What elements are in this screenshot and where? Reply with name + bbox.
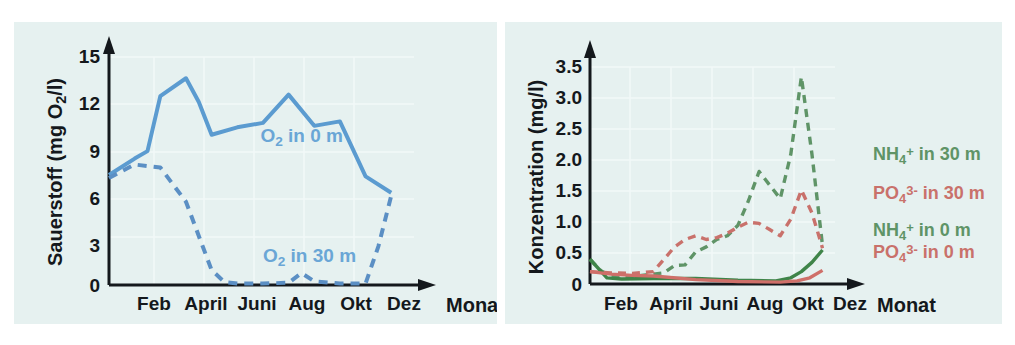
concentration-chart-svg: 3.5 3.0 2.5 2.0 1.5 1.0 0.5 0 Feb April … — [505, 22, 1002, 324]
y-tick-label: 0.5 — [556, 242, 583, 263]
x-tick-label: April — [649, 293, 692, 314]
oxygen-y-axis-title: Sauerstoff (mg O2/l) — [44, 78, 69, 266]
concentration-y-axis — [584, 40, 596, 284]
x-tick-label: Juni — [237, 293, 276, 314]
oxygen-y-tick-labels: 15 12 9 6 3 0 — [79, 46, 101, 296]
y-tick-label: 9 — [89, 141, 100, 162]
y-tick-label: 1.5 — [556, 180, 583, 201]
x-tick-label: Dez — [833, 293, 867, 314]
series-line-o2-0m — [109, 78, 391, 193]
x-tick-label: Aug — [289, 293, 326, 314]
x-axis-arrow-icon — [418, 279, 436, 291]
legend-item-nh4-0m: NH4+ in 0 m — [873, 220, 971, 243]
y-tick-label: 6 — [89, 188, 100, 209]
figure-root: 15 12 9 6 3 0 Feb April Juni Aug Okt Dez… — [0, 0, 1015, 345]
y-tick-label: 3.5 — [556, 56, 583, 77]
concentration-y-tick-labels: 3.5 3.0 2.5 2.0 1.5 1.0 0.5 0 — [556, 56, 583, 295]
x-tick-label: Feb — [604, 293, 638, 314]
oxygen-x-axis — [109, 279, 436, 291]
y-axis-title-sub: 2 — [53, 96, 69, 104]
x-tick-label: Juni — [699, 293, 738, 314]
x-axis-arrow-icon — [847, 278, 865, 290]
oxygen-x-axis-title: Monat — [446, 294, 497, 316]
concentration-series-group — [590, 77, 823, 282]
y-axis-arrow-icon — [103, 36, 115, 54]
y-tick-label: 0 — [89, 275, 100, 296]
oxygen-chart-svg: 15 12 9 6 3 0 Feb April Juni Aug Okt Dez… — [14, 22, 497, 324]
series-line-po4-30m — [590, 190, 823, 273]
y-tick-label: 3 — [89, 235, 100, 256]
y-tick-label: 12 — [79, 93, 100, 114]
x-tick-label: Aug — [747, 293, 784, 314]
concentration-x-tick-labels: Feb April Juni Aug Okt Dez — [604, 293, 867, 314]
y-tick-label: 3.0 — [556, 87, 582, 108]
legend-item-nh4-30m: NH4+ in 30 m — [873, 144, 981, 167]
concentration-legend: NH4+ in 30 m PO43- in 30 m NH4+ in 0 m P… — [873, 144, 985, 265]
oxygen-gridlines — [109, 57, 414, 285]
oxygen-chart-panel: 15 12 9 6 3 0 Feb April Juni Aug Okt Dez… — [14, 22, 497, 324]
concentration-chart-panel: 3.5 3.0 2.5 2.0 1.5 1.0 0.5 0 Feb April … — [505, 22, 1002, 324]
oxygen-x-tick-labels: Feb April Juni Aug Okt Dez — [137, 293, 421, 314]
y-axis-arrow-icon — [584, 40, 596, 58]
y-tick-label: 2.5 — [556, 118, 583, 139]
series-label-o2-0m: O2 in 0 m — [260, 125, 343, 149]
legend-item-po4-0m: PO43- in 0 m — [873, 242, 975, 265]
series-line-nh4-30m — [590, 77, 823, 277]
y-tick-label: 0 — [571, 274, 582, 295]
x-tick-label: Okt — [340, 293, 372, 314]
y-tick-label: 15 — [79, 46, 101, 67]
x-tick-label: Okt — [792, 293, 824, 314]
y-tick-label: 2.0 — [556, 149, 582, 170]
y-tick-label: 1.0 — [556, 211, 582, 232]
legend-item-po4-30m: PO43- in 30 m — [873, 183, 985, 206]
concentration-x-axis-title: Monat — [877, 294, 936, 316]
x-tick-label: Dez — [387, 293, 421, 314]
y-axis-title-pre: Sauerstoff (mg O — [44, 104, 66, 266]
oxygen-y-axis — [103, 36, 115, 285]
x-tick-label: Feb — [137, 293, 171, 314]
concentration-y-axis-title: Konzentration (mg/l) — [525, 80, 547, 274]
x-tick-label: April — [184, 293, 227, 314]
y-axis-title-post: /l) — [44, 78, 66, 96]
series-label-o2-30m: O2 in 30 m — [263, 245, 356, 269]
